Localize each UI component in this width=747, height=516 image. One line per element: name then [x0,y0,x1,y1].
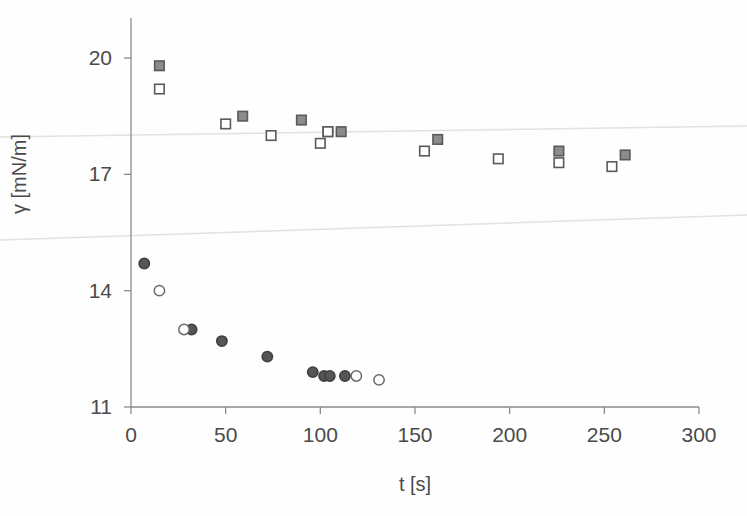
x-axis-tick-label: 100 [303,423,338,447]
series-filled-squares [155,61,630,160]
upper-scan-line [0,126,747,137]
data-point-circle-gray [308,367,318,377]
x-axis-tick-label: 0 [125,423,137,447]
data-point-square-open [420,146,430,156]
series-open-circles [154,285,384,385]
data-point-square-open [607,162,617,172]
x-axis-tick-label: 200 [492,423,527,447]
data-point-square-open [316,139,326,149]
data-series-markers [139,61,630,385]
data-point-circle-open [351,371,361,381]
data-point-square-gray [297,115,307,125]
data-point-square-open [221,119,231,129]
series-filled-circles [139,258,350,381]
data-point-square-gray [554,146,564,156]
data-point-square-open [323,127,333,137]
x-axis-tick-label: 50 [214,423,237,447]
data-point-square-open [554,158,564,168]
scan-artifact-lines [0,126,747,240]
data-point-square-gray [336,127,346,137]
y-axis-tick-label: 11 [60,395,112,419]
data-point-circle-gray [340,371,350,381]
data-point-circle-gray [262,351,272,361]
data-point-square-open [266,131,276,141]
plot-canvas [0,0,747,516]
data-point-circle-open [154,285,164,295]
data-point-square-open [155,84,165,94]
y-axis-tick-label: 14 [60,279,112,303]
x-axis-tick-label: 250 [587,423,622,447]
series-open-squares [155,84,617,171]
data-point-square-gray [155,61,165,71]
data-point-circle-gray [325,371,335,381]
y-axis-tick-label: 20 [60,46,112,70]
data-point-square-open [494,154,504,164]
data-point-square-gray [620,150,630,160]
x-axis-title: t [s] [399,473,431,496]
y-axis-tick-label: 17 [60,162,112,186]
x-axis-tick-label: 300 [681,423,716,447]
data-point-square-gray [238,111,248,121]
scatter-chart-figure: 11141720 050100150200250300 γ [mN/m] t [… [0,0,747,516]
data-point-circle-gray [139,258,149,268]
data-point-circle-open [374,375,384,385]
data-point-circle-open [179,324,189,334]
data-point-circle-gray [217,336,227,346]
data-point-square-gray [433,135,443,145]
lower-scan-line [0,215,747,240]
y-axis-title: γ [mN/m] [8,134,31,214]
axes [124,18,699,414]
x-axis-tick-label: 150 [397,423,432,447]
